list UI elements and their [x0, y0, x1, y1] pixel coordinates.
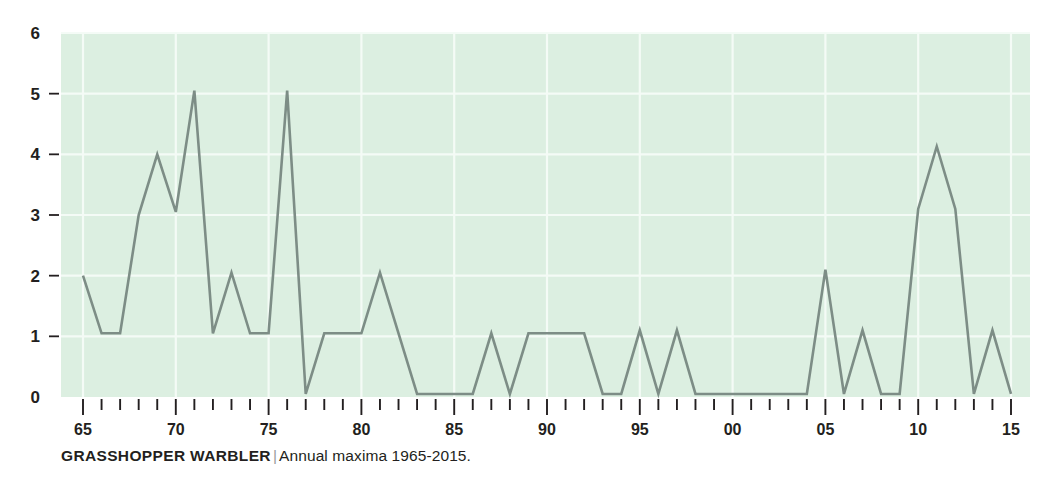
- y-axis-tick-label: 6: [31, 24, 40, 43]
- caption-separator: |: [271, 447, 279, 464]
- x-axis-tick-label: 75: [260, 421, 278, 438]
- x-axis-tick-label: 95: [631, 421, 649, 438]
- y-axis-tick-label: 2: [31, 267, 40, 286]
- caption-subtitle: Annual maxima 1965-2015.: [279, 447, 471, 464]
- grasshopper-warbler-line-chart: 0123456 6570758085909500051015: [0, 0, 1048, 488]
- x-axis-tick-label: 70: [167, 421, 185, 438]
- y-axis-tick-label: 1: [31, 327, 40, 346]
- x-axis-tick-label: 10: [909, 421, 927, 438]
- y-axis-tick-label: 0: [31, 388, 40, 407]
- y-axis-labels: 0123456: [31, 24, 41, 407]
- x-axis-tick-label: 15: [1002, 421, 1020, 438]
- y-axis-tick-label: 3: [31, 206, 40, 225]
- x-axis-tick-label: 00: [724, 421, 742, 438]
- y-axis-tick-label: 4: [31, 145, 41, 164]
- x-axis-labels: 6570758085909500051015: [74, 421, 1020, 438]
- caption-title: GRASSHOPPER WARBLER: [61, 447, 271, 464]
- chart-caption: GRASSHOPPER WARBLER|Annual maxima 1965-2…: [61, 447, 471, 465]
- x-axis-tick-label: 05: [817, 421, 835, 438]
- chart-figure: 0123456 6570758085909500051015 GRASSHOPP…: [0, 0, 1048, 488]
- x-axis-tick-label: 65: [74, 421, 92, 438]
- x-axis-tick-label: 80: [353, 421, 371, 438]
- x-axis-tick-label: 85: [445, 421, 463, 438]
- y-axis-ticks: [49, 94, 59, 337]
- y-axis-tick-label: 5: [31, 85, 40, 104]
- x-axis-ticks: [83, 399, 1011, 415]
- x-axis-tick-label: 90: [538, 421, 556, 438]
